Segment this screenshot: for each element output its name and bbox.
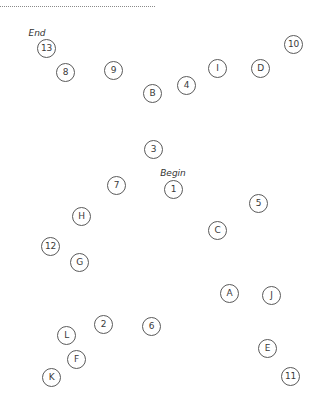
node-13[interactable]: 13 <box>37 39 56 58</box>
node-g[interactable]: G <box>70 253 89 272</box>
node-k[interactable]: K <box>42 368 61 387</box>
node-11[interactable]: 11 <box>281 367 300 386</box>
node-1[interactable]: 1 <box>164 180 183 199</box>
node-l[interactable]: L <box>57 326 76 345</box>
node-a[interactable]: A <box>220 284 239 303</box>
node-e[interactable]: E <box>258 339 277 358</box>
node-i[interactable]: I <box>208 59 227 78</box>
node-b[interactable]: B <box>143 84 162 103</box>
node-6[interactable]: 6 <box>142 317 161 336</box>
node-5[interactable]: 5 <box>249 194 268 213</box>
node-4[interactable]: 4 <box>177 76 196 95</box>
node-h[interactable]: H <box>72 207 91 226</box>
node-d[interactable]: D <box>251 59 270 78</box>
node-f[interactable]: F <box>67 350 86 369</box>
node-j[interactable]: J <box>262 286 281 305</box>
node-c[interactable]: C <box>208 221 227 240</box>
node-12[interactable]: 12 <box>41 237 60 256</box>
trail-making-canvas: End Begin 1 A 2 B 3 C 4 D 5 E 6 F 7 G 8 … <box>0 0 321 412</box>
begin-label: Begin <box>160 168 186 178</box>
node-3[interactable]: 3 <box>144 140 163 159</box>
dotted-divider <box>0 6 155 7</box>
end-label: End <box>28 28 45 38</box>
node-7[interactable]: 7 <box>107 176 126 195</box>
node-9[interactable]: 9 <box>104 61 123 80</box>
node-2[interactable]: 2 <box>94 315 113 334</box>
node-10[interactable]: 10 <box>284 35 303 54</box>
node-8[interactable]: 8 <box>56 63 75 82</box>
